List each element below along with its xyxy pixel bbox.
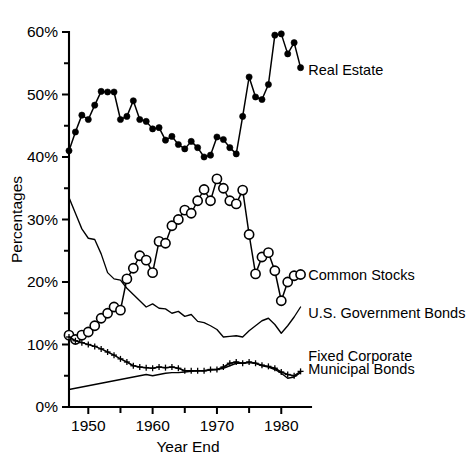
data-point-filled <box>240 113 246 119</box>
data-point-open <box>161 239 170 248</box>
x-axis-tick-label: 1960 <box>135 417 170 434</box>
series-label-real-estate: Real Estate <box>308 62 383 78</box>
data-point-open <box>251 269 260 278</box>
data-point-open <box>174 215 183 224</box>
y-axis-tick-label: 30% <box>27 211 58 228</box>
data-point-open <box>296 270 305 279</box>
data-point-filled <box>278 31 284 37</box>
series-line-real-estate <box>69 34 301 157</box>
data-point-filled <box>79 112 85 118</box>
data-point-open <box>116 306 125 315</box>
data-point-filled <box>156 125 162 131</box>
data-point-filled <box>220 136 226 142</box>
data-point-open <box>232 199 241 208</box>
series-line-municipal-bonds <box>69 363 301 390</box>
data-point-filled <box>291 40 297 46</box>
data-point-open <box>270 266 279 275</box>
chart-container: 0%10%20%30%40%50%60%1950196019701980Year… <box>0 0 471 470</box>
data-point-open <box>129 264 138 273</box>
data-point-filled <box>227 145 233 151</box>
x-axis-tick-label: 1950 <box>71 417 106 434</box>
data-point-open <box>193 196 202 205</box>
x-axis-title: Year End <box>156 438 219 455</box>
data-point-filled <box>85 116 91 122</box>
data-point-open <box>238 186 247 195</box>
data-point-filled <box>124 113 130 119</box>
data-point-filled <box>246 74 252 80</box>
data-point-filled <box>137 116 143 122</box>
series-label-common-stocks: Common Stocks <box>308 267 414 283</box>
data-point-filled <box>143 118 149 124</box>
data-point-open <box>245 230 254 239</box>
x-axis-tick-label: 1980 <box>264 417 299 434</box>
series-label-u-s-government-bonds: U.S. Government Bonds <box>308 305 465 321</box>
y-axis-tick-label: 40% <box>27 148 58 165</box>
y-axis-tick-label: 20% <box>27 273 58 290</box>
y-axis-tick-label: 0% <box>36 398 59 415</box>
series-label-municipal-bonds: Municipal Bonds <box>308 361 414 377</box>
line-chart-svg: 0%10%20%30%40%50%60%1950196019701980Year… <box>0 0 471 470</box>
data-point-filled <box>188 138 194 144</box>
y-axis-tick-label: 10% <box>27 336 58 353</box>
data-point-open <box>199 185 208 194</box>
data-point-filled <box>285 51 291 57</box>
data-point-open <box>264 248 273 257</box>
data-point-filled <box>233 151 239 157</box>
x-axis-tick-label: 1970 <box>200 417 235 434</box>
data-point-open <box>148 268 157 277</box>
data-point-open <box>277 296 286 305</box>
data-point-filled <box>92 102 98 108</box>
data-point-filled <box>162 137 168 143</box>
data-point-filled <box>195 145 201 151</box>
data-point-open <box>122 274 131 283</box>
data-point-filled <box>214 134 220 140</box>
data-point-filled <box>117 116 123 122</box>
data-point-open <box>187 209 196 218</box>
data-point-filled <box>130 98 136 104</box>
data-point-open <box>206 196 215 205</box>
data-point-filled <box>182 146 188 152</box>
data-point-open <box>219 184 228 193</box>
data-point-filled <box>252 94 258 100</box>
data-point-open <box>142 256 151 265</box>
data-point-filled <box>169 133 175 139</box>
y-axis-tick-label: 60% <box>27 23 58 40</box>
y-axis-title: Percentages <box>8 176 25 263</box>
data-point-filled <box>297 65 303 71</box>
data-point-filled <box>72 129 78 135</box>
data-point-open <box>212 174 221 183</box>
data-point-filled <box>175 141 181 147</box>
data-point-filled <box>201 154 207 160</box>
data-point-filled <box>66 148 72 154</box>
data-point-filled <box>98 88 104 94</box>
data-point-filled <box>259 96 265 102</box>
data-point-filled <box>150 126 156 132</box>
data-point-filled <box>111 89 117 95</box>
data-point-filled <box>104 89 110 95</box>
data-point-filled <box>265 81 271 87</box>
y-axis-tick-label: 50% <box>27 86 58 103</box>
data-point-filled <box>207 152 213 158</box>
data-point-filled <box>272 32 278 38</box>
